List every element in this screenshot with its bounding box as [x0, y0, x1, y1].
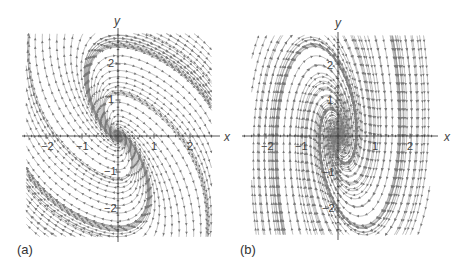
- x-axis-label-b: x: [444, 131, 450, 143]
- x-tick-b-1: 1: [372, 141, 378, 152]
- x-tick-b-2: 2: [407, 141, 413, 152]
- y-tick-a-1: 1: [108, 94, 114, 105]
- streamlines-a: [0, 0, 234, 268]
- y-tick-b-1: 1: [327, 95, 333, 106]
- stream-lines: [251, 35, 431, 236]
- panel-tag-a: (a): [17, 243, 33, 256]
- phase-portrait-b: y x −2 −1 1 2 2 1 −1 −2 (b): [234, 0, 468, 268]
- y-tick-b-neg1: −1: [322, 167, 335, 178]
- panel-tag-b: (b): [240, 243, 256, 256]
- y-tick-a-2: 2: [108, 58, 114, 69]
- y-tick-b-2: 2: [327, 60, 333, 71]
- x-axis-label-a: x: [224, 131, 230, 143]
- y-tick-a-neg2: −2: [104, 203, 117, 214]
- y-tick-b-neg2: −2: [322, 203, 335, 214]
- streamlines-b: [234, 0, 468, 268]
- x-tick-b-neg1: −1: [295, 141, 308, 152]
- y-axis-label-b: y: [335, 17, 341, 29]
- x-tick-a-1: 1: [151, 141, 157, 152]
- x-tick-b-neg2: −2: [261, 141, 274, 152]
- x-tick-a-neg1: −1: [76, 141, 89, 152]
- x-tick-a-neg2: −2: [41, 141, 54, 152]
- x-tick-a-2: 2: [187, 141, 193, 152]
- y-tick-a-neg1: −1: [104, 166, 117, 177]
- phase-portrait-a: y x −2 −1 1 2 2 1 −1 −2 (a): [0, 0, 234, 268]
- y-axis-label-a: y: [114, 15, 120, 27]
